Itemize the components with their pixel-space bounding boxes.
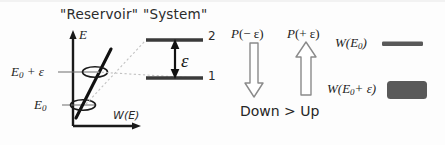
heading-reservoir: "Reservoir" bbox=[60, 8, 138, 22]
top-divider bbox=[0, 0, 445, 2]
weight-swatch-thick bbox=[387, 81, 427, 99]
comparison-text: Down > Up bbox=[240, 104, 319, 118]
tick-upper-tail: + ε bbox=[27, 64, 44, 79]
probability-down-fn: P bbox=[231, 26, 239, 41]
weight-label-0: W(E0) bbox=[335, 36, 367, 51]
heading-system: "System" bbox=[143, 8, 207, 22]
level-label-lower: 1 bbox=[208, 70, 216, 82]
tick-label-lower: E0 bbox=[34, 98, 46, 113]
reservoir-distribution-curve bbox=[76, 49, 111, 118]
tick-label-upper: E0 + ε bbox=[11, 65, 44, 80]
tick-upper-sub: 0 bbox=[19, 70, 24, 80]
weight-0-base: W(E bbox=[335, 35, 358, 50]
weight-1-base: W(E bbox=[327, 81, 350, 96]
weight-1-tail: + ε) bbox=[355, 81, 376, 96]
probability-up-fn: P bbox=[287, 26, 295, 41]
arrow-down-icon bbox=[245, 43, 263, 97]
probability-label-up: P(+ ε) bbox=[287, 27, 320, 40]
weight-swatch-thin bbox=[382, 42, 423, 47]
tick-lower-sub: 0 bbox=[42, 103, 47, 113]
x-axis-label: W(E) bbox=[113, 110, 139, 121]
tick-upper-base: E bbox=[11, 64, 19, 79]
level-label-upper: 2 bbox=[208, 30, 216, 42]
figure-root: "Reservoir" "System" bbox=[0, 0, 445, 145]
probability-up-arg: (+ ε) bbox=[295, 26, 320, 41]
system-energy-levels bbox=[146, 40, 203, 78]
reservoir-state-markers bbox=[71, 67, 108, 110]
system-gap-arrow bbox=[171, 39, 180, 79]
probability-label-down: P(− ε) bbox=[231, 27, 264, 40]
reservoir-tick-guides bbox=[58, 72, 100, 105]
probability-down-arg: (− ε) bbox=[239, 26, 264, 41]
gap-label-epsilon: ε bbox=[181, 51, 189, 70]
y-axis-label: E bbox=[79, 28, 87, 41]
tick-lower-base: E bbox=[34, 97, 42, 112]
reservoir-to-system-guides bbox=[86, 41, 196, 104]
arrow-up-icon bbox=[296, 42, 316, 95]
weight-0-tail: ) bbox=[363, 35, 367, 50]
weight-label-1: W(E0+ ε) bbox=[327, 82, 376, 97]
